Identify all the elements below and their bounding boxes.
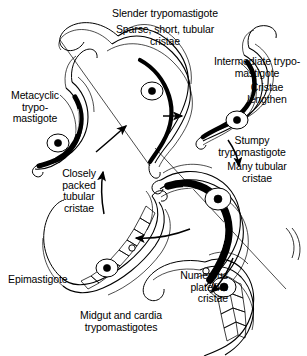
label-slender-trypomastigote: Slender trypomastigote [98,8,232,20]
label-closely-packed-tubular-cristae: Closely packed tubular cristae [50,168,108,214]
label-epimastigote: Epimastigote [8,274,102,286]
organism-fragment-right [286,228,300,260]
arrow-metacyclic-to-slender [96,126,126,152]
label-numerous-platelike-cristae: Numerous platelike cristae [128,270,228,305]
label-stumpy-trypomastigote: Stumpy trypomastigote [198,135,306,158]
trypanosome-lifecycle-figure: Slender trypomastigote Sparse, short, tu… [0,0,307,356]
label-intermediate-trypomastigote: Intermediate trypo- mastigote [207,56,307,79]
label-cristae-lengthen: Cristae lengthen [230,82,304,105]
label-many-tubular-cristae: Many tubular cristae [211,161,303,184]
label-midgut-cardia-trypomastigotes: Midgut and cardia trypomastigotes [58,310,184,333]
label-sparse-cristae: Sparse, short, tubular cristae [88,24,242,47]
label-metacyclic-trypomastigote: Metacyclic trypo- mastigote [2,90,68,125]
